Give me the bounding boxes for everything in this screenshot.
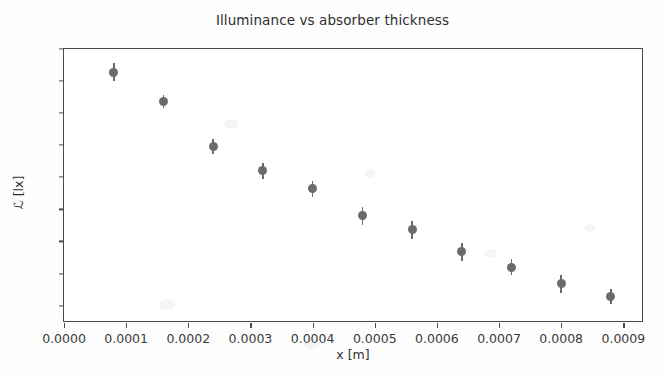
- scan-artifact: [484, 249, 497, 258]
- x-tick-mark: [313, 323, 314, 328]
- scan-artifact: [584, 224, 595, 232]
- chart-title: Illuminance vs absorber thickness: [0, 12, 665, 28]
- data-point: [159, 97, 168, 106]
- scan-artifact: [159, 299, 175, 310]
- y-tick-mark: [59, 209, 64, 210]
- x-tick-mark: [623, 323, 624, 328]
- data-point: [109, 68, 118, 77]
- data-point: [507, 263, 516, 272]
- x-axis-label: x [m]: [63, 347, 643, 362]
- data-point: [209, 142, 218, 151]
- x-tick-mark: [126, 323, 127, 328]
- x-tick-mark: [188, 323, 189, 328]
- plot-area: 0.00000.00010.00020.00030.00040.00050.00…: [63, 48, 643, 322]
- data-point: [606, 292, 615, 301]
- y-tick-mark: [59, 48, 64, 49]
- figure-canvas: Illuminance vs absorber thickness ℒ [lx]…: [0, 0, 665, 374]
- y-tick-mark: [59, 273, 64, 274]
- data-point: [457, 247, 466, 256]
- y-tick-mark: [59, 80, 64, 81]
- scan-artifact: [224, 119, 238, 129]
- x-tick-label: 0.0009: [578, 331, 665, 346]
- x-tick-mark: [64, 323, 65, 328]
- y-axis-label: ℒ [lx]: [11, 153, 26, 233]
- y-tick-mark: [59, 145, 64, 146]
- x-tick-mark: [250, 323, 251, 328]
- data-point: [358, 211, 367, 220]
- x-tick-mark: [437, 323, 438, 328]
- scan-artifact: [364, 169, 376, 178]
- data-layer: [64, 49, 642, 321]
- y-tick-mark: [59, 113, 64, 114]
- y-tick-mark: [59, 305, 64, 306]
- y-tick-mark: [59, 177, 64, 178]
- x-tick-mark: [375, 323, 376, 328]
- x-tick-mark: [499, 323, 500, 328]
- data-point: [258, 166, 267, 175]
- data-point: [308, 184, 317, 193]
- x-tick-mark: [561, 323, 562, 328]
- data-point: [408, 225, 417, 234]
- y-tick-mark: [59, 241, 64, 242]
- data-point: [557, 279, 566, 288]
